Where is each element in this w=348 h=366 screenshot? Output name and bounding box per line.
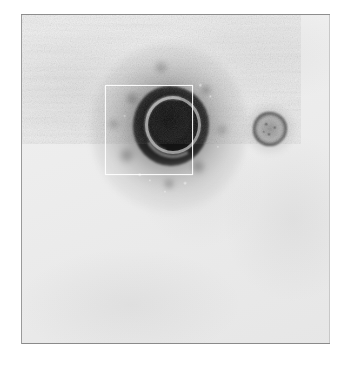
figure-root bbox=[0, 0, 348, 366]
capsid-highlight-arc-lower bbox=[137, 92, 210, 165]
virion-stain-fringe bbox=[103, 56, 235, 198]
small-particle-rim bbox=[253, 112, 287, 146]
small-particle-interior bbox=[258, 117, 282, 141]
small-particle-halo bbox=[244, 103, 296, 155]
large-enveloped-virion bbox=[89, 26, 249, 226]
figure-caption bbox=[21, 348, 330, 364]
small-dense-particle bbox=[244, 103, 296, 155]
selection-square[interactable] bbox=[105, 85, 193, 175]
emulsion-mottle bbox=[21, 14, 330, 344]
virion-halo bbox=[91, 44, 247, 212]
film-grain-layer-highlight bbox=[21, 14, 301, 144]
stain-flecks bbox=[107, 60, 233, 200]
capsid-highlight-arc bbox=[135, 86, 212, 164]
micrograph-plate bbox=[21, 14, 330, 344]
virion-envelope bbox=[133, 86, 209, 166]
emulsion-streaks bbox=[21, 14, 301, 144]
virion-capsid-ring bbox=[145, 96, 201, 154]
film-grain-layer bbox=[21, 14, 301, 144]
virion-core bbox=[151, 102, 189, 142]
plate-border bbox=[21, 14, 330, 344]
